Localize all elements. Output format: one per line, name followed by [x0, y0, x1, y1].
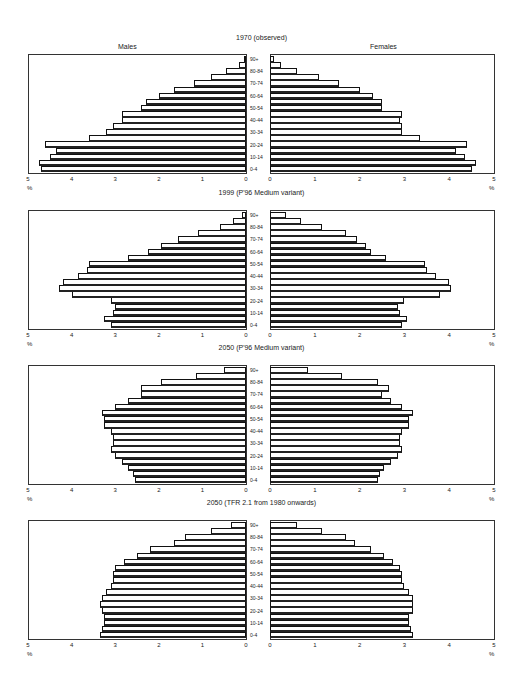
female-bar [270, 160, 476, 167]
male-bar [111, 583, 246, 590]
female-bar [270, 218, 301, 225]
male-bar [102, 410, 246, 417]
female-bar [270, 446, 402, 453]
x-tick-left: 1 [197, 642, 207, 648]
female-bar [270, 304, 398, 311]
x-tick-left: 1 [197, 176, 207, 182]
x-tick-left: 2 [154, 487, 164, 493]
age-label: 50-54 [250, 261, 270, 267]
male-bar [59, 285, 246, 292]
female-bar [270, 410, 413, 417]
male-bar [161, 243, 246, 250]
x-tick-right: 3 [399, 487, 409, 493]
female-bar [270, 416, 409, 423]
female-bar [270, 626, 411, 633]
female-bar [270, 614, 409, 621]
female-bar [270, 135, 420, 142]
male-bar [115, 404, 246, 411]
female-bar [270, 273, 436, 280]
female-bar [270, 99, 382, 106]
female-bar [270, 428, 402, 435]
x-tick-right: 0 [265, 487, 275, 493]
age-label: 70-74 [250, 546, 270, 552]
male-bar [89, 135, 246, 142]
female-bar [270, 291, 440, 298]
age-label: 40-44 [250, 583, 270, 589]
female-bar [270, 105, 382, 112]
female-bar [270, 243, 366, 250]
male-bar [224, 367, 246, 374]
female-bar [270, 589, 409, 596]
female-bar [270, 255, 386, 262]
male-bar [239, 62, 246, 69]
male-bar [159, 93, 246, 100]
male-bar [198, 230, 246, 237]
male-bar [102, 595, 246, 602]
age-label: 90+ [250, 522, 270, 528]
female-bar [270, 571, 402, 578]
male-bar [106, 589, 246, 596]
x-tick-left: 4 [67, 487, 77, 493]
female-bar [270, 148, 456, 155]
male-bar [72, 291, 246, 298]
male-bar [113, 571, 246, 578]
female-bar [270, 459, 391, 466]
female-bar [270, 285, 451, 292]
female-bar [270, 553, 384, 560]
male-bar [148, 249, 246, 256]
x-tick-left: 5 [23, 642, 33, 648]
x-tick-left: 0 [241, 487, 251, 493]
female-bar [270, 212, 286, 219]
male-bar [104, 620, 246, 627]
male-bar [106, 129, 246, 136]
age-label: 20-24 [250, 142, 270, 148]
male-bar [113, 310, 246, 317]
male-bar [111, 297, 246, 304]
male-bar [141, 385, 246, 392]
female-bar [270, 367, 308, 374]
x-tick-right: 3 [399, 176, 409, 182]
female-bar [270, 322, 402, 329]
age-label: 70-74 [250, 391, 270, 397]
male-bar [244, 56, 246, 63]
female-bar [270, 373, 342, 380]
female-bar [270, 224, 322, 231]
x-tick-left: 0 [241, 332, 251, 338]
chart-title: 1999 (P'96 Medium variant) [0, 189, 523, 196]
age-label: 60-64 [250, 249, 270, 255]
age-label: 40-44 [250, 117, 270, 123]
female-bar [270, 577, 402, 584]
female-bar [270, 316, 407, 323]
age-label: 50-54 [250, 416, 270, 422]
female-bar [270, 166, 472, 173]
male-bar [141, 391, 246, 398]
age-label: 30-34 [250, 285, 270, 291]
age-label: 80-84 [250, 224, 270, 230]
male-bar [161, 379, 246, 386]
x-tick-left: 5 [23, 176, 33, 182]
x-tick-right: 4 [444, 642, 454, 648]
age-label: 70-74 [250, 236, 270, 242]
age-label: 90+ [250, 212, 270, 218]
male-bar [56, 148, 246, 155]
male-bar [226, 68, 246, 75]
females-header: Females [370, 43, 397, 50]
female-bar [270, 595, 413, 602]
male-bar [178, 236, 246, 243]
x-tick-right: 2 [355, 332, 365, 338]
female-bar [270, 123, 402, 130]
age-label: 30-34 [250, 595, 270, 601]
age-label: 30-34 [250, 129, 270, 135]
male-bar [41, 166, 246, 173]
x-tick-left: 0 [241, 176, 251, 182]
male-bar [104, 422, 246, 429]
male-bar [78, 273, 246, 280]
male-bar [115, 565, 246, 572]
age-label: 60-64 [250, 559, 270, 565]
male-bar [174, 87, 246, 94]
x-tick-right: 3 [399, 332, 409, 338]
chart-title: 2050 (P'96 Medium variant) [0, 344, 523, 351]
female-bar [270, 80, 339, 87]
male-bar [128, 465, 246, 472]
female-bar [270, 87, 360, 94]
